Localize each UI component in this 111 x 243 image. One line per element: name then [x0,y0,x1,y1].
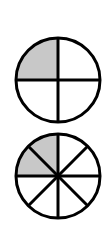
fourths-circle [16,38,100,122]
fraction-diagram [0,0,111,243]
eighths-circle [16,134,100,218]
